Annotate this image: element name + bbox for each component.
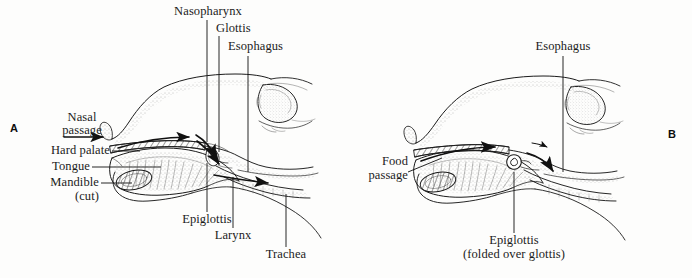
- panel-a-marker: A: [10, 122, 18, 134]
- label-mandible-line1: Mandible: [22, 176, 99, 190]
- panel-b-drawing: [404, 76, 625, 240]
- label-hard-palate: Hard palate: [22, 144, 110, 158]
- label-esophagus-a: Esophagus: [228, 40, 283, 54]
- label-larynx: Larynx: [203, 229, 263, 243]
- label-glottis: Glottis: [216, 22, 251, 36]
- label-nasopharynx: Nasopharynx: [168, 5, 248, 19]
- label-food-passage-line1: Food: [340, 155, 408, 169]
- label-epiglottis-b-line2: (folded over glottis): [440, 248, 588, 262]
- panel-b-marker: B: [668, 128, 676, 140]
- label-nasal-passage-line2: passage: [52, 124, 112, 138]
- label-food-passage-line2: passage: [340, 169, 408, 183]
- anatomy-figure: A Nasopharynx Glottis Esophagus Nasal pa…: [0, 0, 692, 278]
- label-tongue: Tongue: [22, 160, 90, 174]
- label-epiglottis-a: Epiglottis: [167, 213, 247, 227]
- label-epiglottis-b-line1: Epiglottis: [474, 234, 554, 248]
- label-mandible-line2: (cut): [22, 190, 99, 204]
- label-trachea: Trachea: [256, 248, 316, 262]
- label-esophagus-b: Esophagus: [532, 40, 594, 54]
